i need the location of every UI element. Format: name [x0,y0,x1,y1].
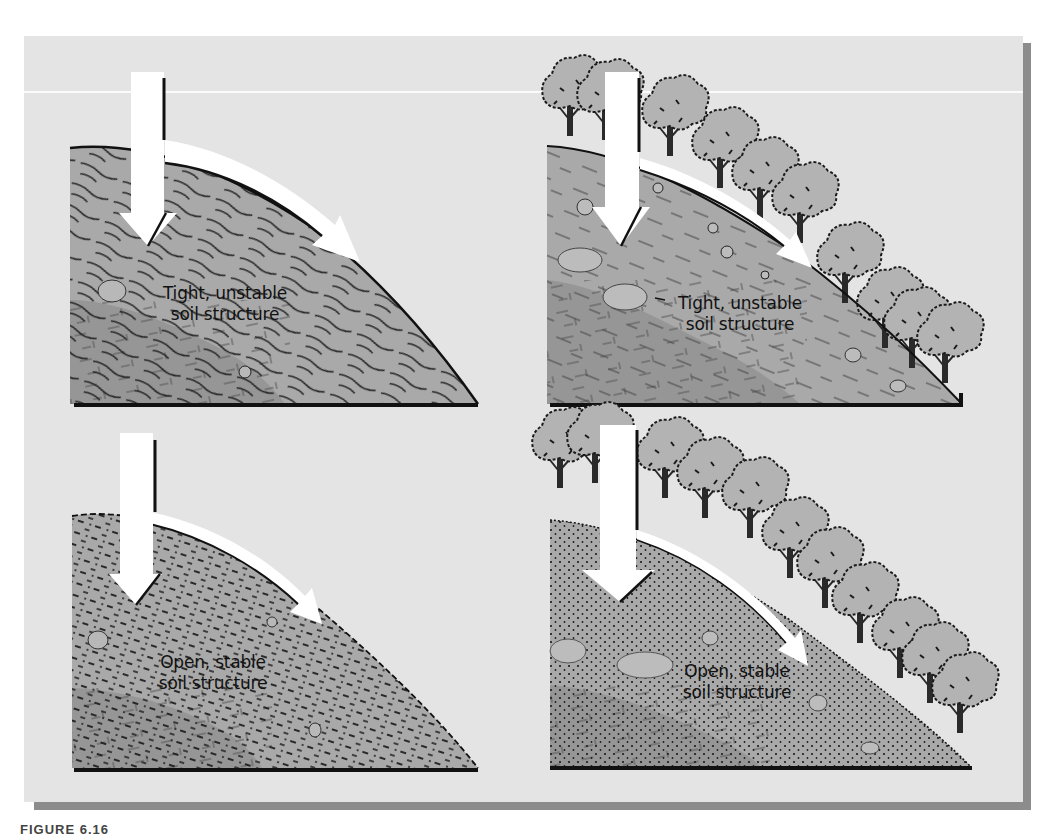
label-bottom-right: Open, stable soil structure [672,661,802,703]
label-top-left: Tight, unstable soil structure [150,283,300,325]
label-line-2: soil structure [150,304,300,325]
panel-top-right [540,55,984,410]
label-bottom-left: Open, stable soil structure [148,652,278,694]
panel-bottom-left [60,433,490,772]
label-line-2: soil structure [672,682,802,703]
ground-baseline [74,768,478,772]
label-line-2: soil structure [665,314,815,335]
panel-top-left [60,72,490,410]
label-line-1: Tight, unstable [150,283,300,304]
tight-soil-texture [60,140,490,410]
label-top-right: Tight, unstable soil structure [665,293,815,335]
label-line-1: Open, stable [672,661,802,682]
ground-baseline [74,403,478,407]
ground-baseline [550,766,972,770]
label-line-1: Open, stable [148,652,278,673]
panel-bottom-right [532,402,998,770]
label-line-1: Tight, unstable [665,293,815,314]
label-line-2: soil structure [148,673,278,694]
figure-caption: FIGURE 6.16 [20,822,109,837]
